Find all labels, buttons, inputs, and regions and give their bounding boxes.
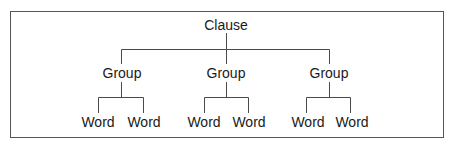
node-word-1-2: Word (127, 114, 160, 130)
node-group-1: Group (103, 65, 142, 81)
clause-tree-diagram: Clause Group Group Group Word Word Word … (0, 0, 450, 145)
node-word-3-2: Word (335, 114, 368, 130)
node-group-3: Group (310, 65, 349, 81)
node-clause: Clause (204, 17, 248, 33)
node-word-3-1: Word (291, 114, 324, 130)
node-group-2: Group (207, 65, 246, 81)
node-word-1-1: Word (81, 114, 114, 130)
node-word-2-1: Word (187, 114, 220, 130)
node-word-2-2: Word (232, 114, 265, 130)
